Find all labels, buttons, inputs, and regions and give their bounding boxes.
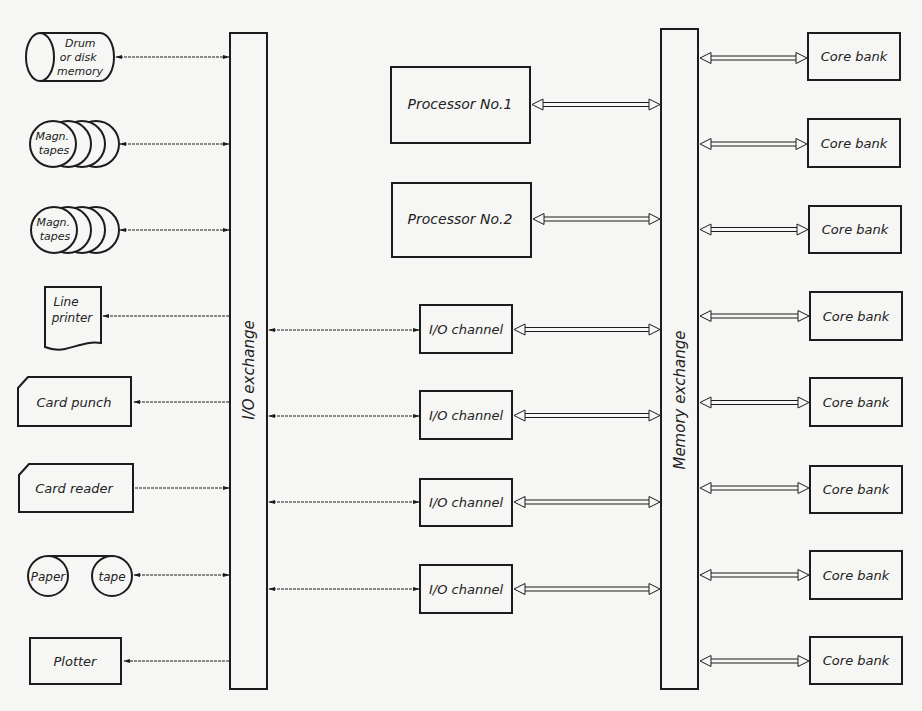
processor-1-label: Processor No.1 bbox=[408, 96, 513, 112]
plotter-label: Plotter bbox=[54, 654, 99, 669]
io-channel-1-label: I/O channel bbox=[429, 322, 503, 337]
core-bank-6-label: Core bank bbox=[823, 482, 890, 497]
io-channel-2-label: I/O channel bbox=[429, 408, 503, 423]
core-bank-2[interactable]: Core bank bbox=[808, 119, 900, 167]
drum-label: Drum or disk memory bbox=[57, 37, 103, 78]
io-channel-1-memory-link bbox=[514, 324, 660, 335]
core-bank-8-link bbox=[700, 656, 809, 667]
io-exchange-bus: I/O exchange bbox=[230, 33, 267, 689]
processor-2-memory-link bbox=[533, 214, 660, 225]
card-reader-label: Card reader bbox=[35, 481, 114, 496]
io-channel-3-memory-link bbox=[514, 497, 660, 508]
core-bank-5-link bbox=[700, 397, 809, 408]
core-bank-2-link bbox=[700, 139, 807, 150]
core-bank-1-label: Core bank bbox=[821, 49, 888, 64]
peripheral-plotter[interactable]: Plotter bbox=[30, 638, 121, 684]
core-bank-4-link bbox=[700, 311, 809, 322]
memory-exchange-bus: Memory exchange bbox=[661, 29, 698, 689]
io-channel-2[interactable]: I/O channel bbox=[420, 391, 512, 439]
core-bank-2-label: Core bank bbox=[821, 136, 888, 151]
core-bank-7[interactable]: Core bank bbox=[810, 551, 902, 599]
peripheral-card-reader[interactable]: Card reader bbox=[19, 464, 133, 512]
paper-label: Paper bbox=[31, 570, 67, 584]
core-bank-7-link bbox=[700, 570, 809, 581]
core-bank-1-link bbox=[700, 53, 807, 64]
tapes1-label: Magn. tapes bbox=[35, 130, 72, 157]
core-bank-8[interactable]: Core bank bbox=[810, 637, 902, 684]
core-bank-3-label: Core bank bbox=[822, 222, 889, 237]
core-bank-3-link bbox=[700, 224, 808, 235]
io-channel-4[interactable]: I/O channel bbox=[420, 565, 512, 613]
io-channel-4-label: I/O channel bbox=[429, 582, 503, 597]
processor-1-memory-link bbox=[532, 99, 660, 110]
io-channel-2-memory-link bbox=[514, 410, 660, 421]
peripheral-magnetic-tapes-2[interactable]: Magn. tapes bbox=[31, 207, 119, 253]
processor-1[interactable]: Processor No.1 bbox=[391, 67, 530, 143]
core-bank-4[interactable]: Core bank bbox=[810, 292, 902, 340]
tape-label: tape bbox=[98, 570, 125, 584]
system-block-diagram: I/O exchange Memory exchange Drum or dis… bbox=[0, 0, 922, 711]
peripheral-card-punch[interactable]: Card punch bbox=[18, 377, 131, 426]
tapes2-label: Magn. tapes bbox=[36, 216, 73, 243]
core-bank-4-label: Core bank bbox=[823, 309, 890, 324]
processor-2-label: Processor No.2 bbox=[408, 211, 513, 227]
core-bank-7-label: Core bank bbox=[823, 568, 890, 583]
core-bank-6[interactable]: Core bank bbox=[810, 466, 902, 513]
processor-2[interactable]: Processor No.2 bbox=[392, 183, 531, 257]
core-bank-5-label: Core bank bbox=[823, 395, 890, 410]
core-bank-6-link bbox=[700, 483, 809, 494]
core-bank-1[interactable]: Core bank bbox=[808, 33, 900, 80]
core-bank-8-label: Core bank bbox=[823, 653, 890, 668]
memory-exchange-label: Memory exchange bbox=[671, 330, 689, 469]
peripheral-magnetic-tapes-1[interactable]: Magn. tapes bbox=[30, 121, 119, 167]
io-channel-3-label: I/O channel bbox=[429, 495, 503, 510]
printer-label: Line printer bbox=[51, 295, 94, 325]
core-bank-3[interactable]: Core bank bbox=[809, 206, 901, 253]
peripheral-drum-disk-memory[interactable]: Drum or disk memory bbox=[26, 33, 114, 81]
core-bank-5[interactable]: Core bank bbox=[810, 378, 902, 426]
peripheral-paper-tape[interactable]: Paper tape bbox=[28, 556, 132, 596]
io-exchange-label: I/O exchange bbox=[240, 320, 258, 419]
card-punch-label: Card punch bbox=[37, 395, 112, 410]
io-channel-1[interactable]: I/O channel bbox=[420, 305, 512, 353]
io-channel-3[interactable]: I/O channel bbox=[420, 479, 512, 526]
io-channel-4-memory-link bbox=[514, 584, 660, 595]
peripheral-line-printer[interactable]: Line printer bbox=[45, 287, 101, 350]
